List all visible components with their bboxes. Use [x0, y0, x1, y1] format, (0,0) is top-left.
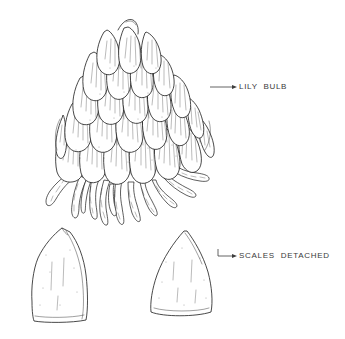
illustration-canvas	[0, 0, 345, 339]
leader-line-lily-bulb	[210, 85, 237, 89]
label-lily-bulb: LILY BULB	[239, 83, 287, 91]
lily-bulb-drawing	[46, 19, 214, 225]
leader-line-scales-detached	[218, 249, 237, 258]
detached-scale-right	[151, 231, 212, 316]
bulb-scale-tier-apex	[97, 19, 161, 74]
label-scales-detached: SCALES DETACHED	[239, 252, 330, 260]
botanical-figure: LILY BULB SCALES DETACHED	[0, 0, 345, 339]
detached-scale-left	[32, 228, 88, 322]
